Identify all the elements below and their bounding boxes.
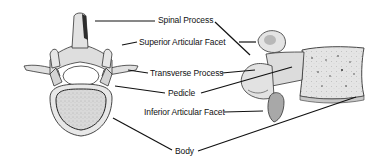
label-transverse-process: Transverse Process <box>150 68 223 78</box>
label-spinal-process: Spinal Process <box>158 15 213 25</box>
label-body: Body <box>175 146 194 156</box>
label-pedicle: Pedicle <box>168 88 195 98</box>
diagram-artwork <box>0 0 388 168</box>
label-superior-articular-facet: Superior Articular Facet <box>139 37 225 47</box>
vertebra-diagram: Spinal Process Superior Articular Facet … <box>0 0 388 168</box>
superior-view-vertebra <box>24 13 138 136</box>
label-inferior-articular-facet: Inferior Articular Facet <box>144 107 225 117</box>
